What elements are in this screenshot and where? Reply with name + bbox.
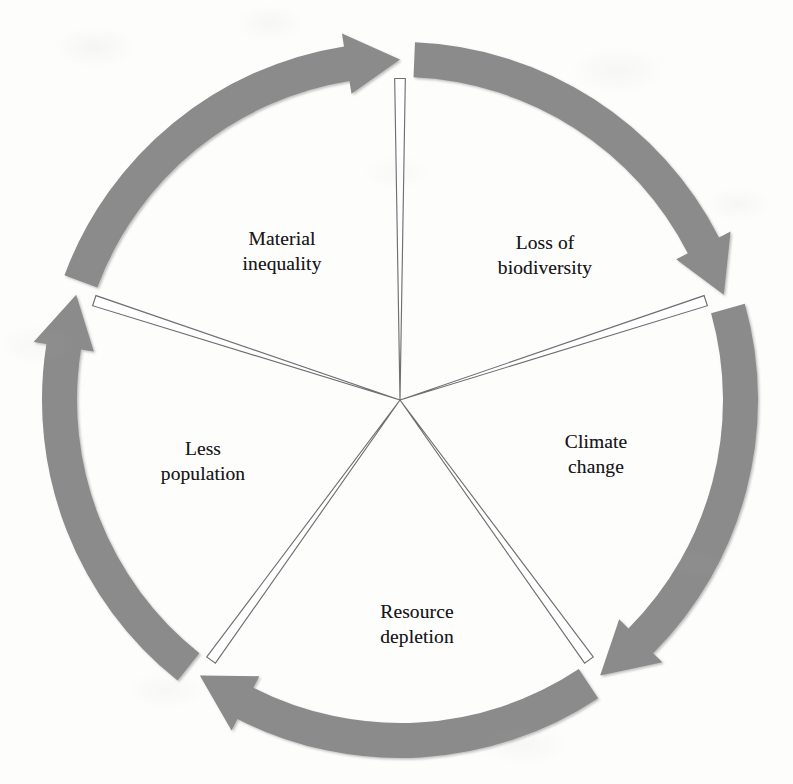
cycle-diagram-figure: Loss of biodiversity Climate change Reso… xyxy=(0,0,793,784)
radial-divider-material-inequality xyxy=(93,296,400,400)
sector-label-resource-depletion: Resource depletion xyxy=(380,600,453,650)
cycle-diagram-canvas xyxy=(0,0,793,784)
cycle-arrow-material-inequality xyxy=(64,34,400,288)
sector-label-material-inequality: Material inequality xyxy=(243,227,322,277)
sector-label-loss-of-biodiversity: Loss of biodiversity xyxy=(498,231,592,281)
radial-divider-group xyxy=(93,79,708,664)
cycle-arrow-climate-change xyxy=(600,304,758,676)
cycle-arrow-resource-depletion xyxy=(200,669,598,758)
radial-divider-loss-of-biodiversity xyxy=(395,79,406,400)
sector-label-climate-change: Climate change xyxy=(565,430,627,480)
radial-divider-climate-change xyxy=(400,296,707,400)
sector-label-less-population: Less population xyxy=(161,437,245,487)
cycle-arrow-less-population xyxy=(34,295,200,681)
